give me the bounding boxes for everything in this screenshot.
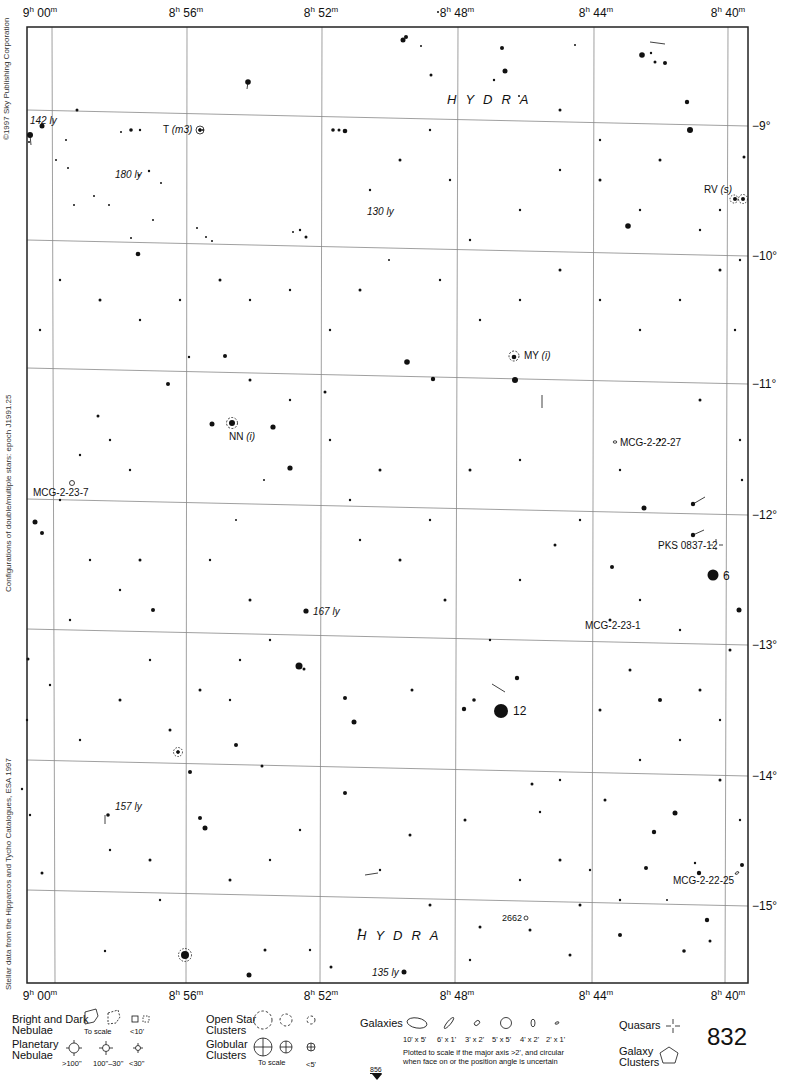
star [719, 209, 721, 211]
ra-label: 8h 40m [711, 5, 746, 20]
star [733, 197, 737, 201]
star [239, 659, 241, 661]
star [379, 469, 382, 472]
star [705, 918, 709, 922]
star [599, 709, 602, 712]
ra-label: 8h 56m [169, 988, 204, 1003]
star [604, 799, 607, 802]
star [399, 159, 402, 162]
star [682, 949, 686, 953]
galaxy-size-icons [403, 1012, 573, 1034]
star [289, 289, 291, 291]
star [97, 415, 100, 418]
ra-label: 8h 52m [304, 5, 339, 20]
star [108, 204, 110, 206]
ra-label: 8h 44m [579, 5, 614, 20]
star [679, 739, 681, 741]
galaxy-size-label: 6' x 1' [437, 1035, 456, 1044]
galaxy-size-label: 2' x 1' [546, 1035, 565, 1044]
star [554, 544, 557, 547]
star [198, 816, 202, 820]
star [106, 813, 110, 817]
globular-cluster-icons [252, 1035, 322, 1060]
star [166, 382, 170, 386]
star [519, 209, 521, 211]
legend-galaxy-note: Plotted to scale if the major axis >2', … [403, 1048, 564, 1066]
star [136, 252, 141, 257]
star [369, 189, 371, 191]
star [234, 743, 238, 747]
star [329, 439, 331, 441]
star [599, 179, 602, 182]
star [619, 899, 621, 901]
star [299, 829, 301, 831]
star [359, 289, 362, 292]
star [429, 129, 431, 131]
star [579, 904, 582, 907]
star [512, 355, 517, 360]
star [229, 420, 235, 426]
star [743, 156, 746, 159]
star [296, 663, 303, 670]
galaxy-cluster-pentagon-icon [658, 1045, 680, 1065]
star [741, 479, 743, 481]
star [59, 499, 61, 501]
star [129, 128, 133, 132]
legend-open-clusters-title: Open Star Clusters [206, 1014, 256, 1036]
star [589, 869, 591, 871]
star [65, 139, 67, 141]
star [610, 565, 614, 569]
star [211, 240, 213, 242]
page-number: 832 [707, 1023, 747, 1051]
star [324, 391, 327, 394]
dec-label: −13° [752, 638, 777, 652]
star [21, 788, 23, 790]
star [512, 377, 518, 383]
next-page-ref[interactable]: 856 [370, 1066, 382, 1073]
star [437, 11, 439, 13]
legend-lt5: <5' [306, 1060, 316, 1069]
star [139, 559, 142, 562]
down-arrow-icon[interactable] [372, 1074, 382, 1080]
star [462, 707, 466, 711]
star [599, 139, 601, 141]
star [685, 100, 689, 104]
star [679, 299, 681, 301]
star [223, 354, 227, 358]
star [349, 499, 351, 501]
star [343, 129, 348, 134]
star [209, 559, 211, 561]
star [303, 608, 308, 613]
star [673, 811, 678, 816]
star-number-6: 6 [723, 569, 730, 583]
star [99, 299, 102, 302]
star [27, 658, 30, 661]
star-field [21, 11, 746, 978]
star [299, 229, 301, 231]
star [41, 872, 44, 875]
star [303, 668, 306, 671]
star [152, 219, 154, 221]
star [76, 109, 79, 112]
star [249, 299, 251, 301]
star [599, 299, 601, 301]
star [119, 699, 122, 702]
star [642, 506, 647, 511]
star [409, 834, 412, 837]
star [699, 689, 702, 692]
star [650, 52, 652, 54]
star [235, 519, 237, 521]
star [639, 329, 641, 331]
star [515, 676, 519, 680]
legend-quasars-title: Quasars [619, 1020, 661, 1031]
star [343, 791, 347, 795]
star [160, 182, 162, 184]
star [479, 926, 482, 929]
star [666, 899, 668, 901]
star [188, 356, 190, 358]
star [26, 719, 28, 721]
data-source-note: Stellar data from the Hipparcos and Tych… [4, 758, 13, 990]
star [663, 61, 667, 65]
star [740, 863, 744, 867]
label-mcg-2-22-25: MCG-2-22-25 [673, 875, 734, 886]
